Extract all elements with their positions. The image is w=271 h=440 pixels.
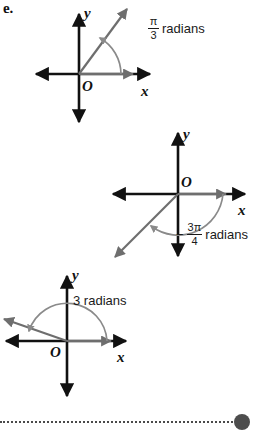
x-axis-label: x — [141, 84, 149, 99]
angle-measure-label-2: − 3π 4 radians — [176, 222, 248, 247]
unit-word: radians — [162, 22, 205, 36]
dotted-leader — [0, 414, 271, 432]
dotted-line — [0, 421, 244, 423]
origin-label: O — [50, 345, 61, 360]
y-axis-label: y — [183, 127, 190, 142]
unit-word: 3 radians — [73, 294, 126, 308]
figure-root: e. — [0, 0, 271, 440]
fraction-numerator: π — [149, 16, 159, 28]
diagram-angle-negative-3pi-over-4: y x O — [95, 125, 271, 270]
coordinate-plane-3 — [0, 262, 165, 402]
origin-label: O — [181, 175, 192, 190]
y-axis-label: y — [72, 268, 79, 283]
y-axis-label: y — [84, 6, 91, 21]
coordinate-plane-2 — [95, 125, 271, 270]
fraction-3pi-over-4: 3π 4 — [187, 222, 203, 247]
diagram-angle-3-radians: y x O — [0, 262, 165, 402]
terminal-side-ray — [4, 319, 67, 341]
terminal-side-ray — [115, 194, 178, 257]
fraction-denominator: 4 — [190, 235, 198, 247]
angle-measure-label-1: π 3 radians — [148, 16, 205, 41]
x-axis-label: x — [117, 350, 125, 365]
angle-measure-label-3: 3 radians — [73, 294, 126, 308]
leader-end-dot — [234, 414, 250, 430]
angle-arc — [100, 38, 121, 74]
unit-word: radians — [205, 228, 248, 242]
negative-sign: − — [176, 228, 184, 242]
fraction-pi-over-3: π 3 — [148, 16, 159, 41]
fraction-numerator: 3π — [187, 222, 203, 234]
origin-label: O — [82, 79, 93, 94]
fraction-denominator: 3 — [149, 29, 157, 41]
x-axis-label: x — [238, 203, 246, 218]
